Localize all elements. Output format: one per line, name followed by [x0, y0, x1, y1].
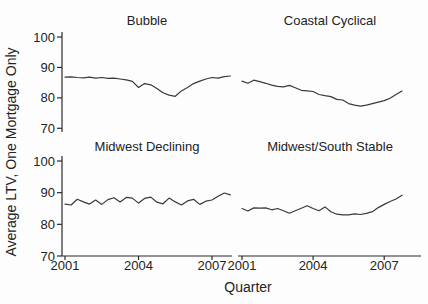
panel-title-midwest-south-stable: Midwest/South Stable [267, 139, 393, 154]
x-tick-label: 2007 [198, 258, 227, 273]
y-tick-label: 80 [41, 217, 55, 232]
panel-title-midwest-declining: Midwest Declining [95, 139, 200, 154]
series-line [242, 195, 402, 215]
y-tick-label: 80 [41, 90, 55, 105]
panel-title-bubble: Bubble [127, 13, 167, 28]
ltv-panel-chart: 1009080701009080702001200420072001200420… [0, 0, 428, 304]
x-axis-label: Quarter [224, 279, 271, 295]
x-tick-label: 2004 [299, 258, 328, 273]
x-tick-label: 2001 [51, 258, 80, 273]
y-tick-label: 90 [41, 60, 55, 75]
y-tick-label: 90 [41, 185, 55, 200]
series-line [242, 80, 402, 106]
series-line [65, 193, 230, 205]
y-tick-label: 100 [33, 154, 55, 169]
x-tick-label: 2004 [124, 258, 153, 273]
x-tick-label: 2007 [370, 258, 399, 273]
panel-title-coastal-cyclical: Coastal Cyclical [284, 13, 376, 28]
y-tick-label: 70 [41, 121, 55, 136]
x-tick-label: 2001 [228, 258, 257, 273]
y-axis-label: Average LTV, One Mortgage Only [3, 47, 19, 256]
y-tick-label: 100 [33, 30, 55, 45]
series-line [65, 76, 230, 96]
